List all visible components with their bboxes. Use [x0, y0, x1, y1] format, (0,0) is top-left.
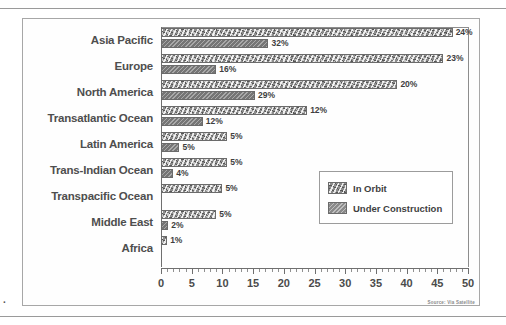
axis-tick-major	[437, 269, 438, 274]
category-label: Middle East	[23, 209, 159, 235]
axis-tick-minor	[333, 269, 334, 272]
category-label: Africa	[23, 235, 159, 261]
axis-tick-minor	[327, 269, 328, 272]
plot-area: Asia PacificEuropeNorth AmericaTransatla…	[23, 19, 481, 307]
axis-tick-major	[253, 269, 254, 274]
axis-tick-minor	[370, 269, 371, 272]
axis-tick-label: 40	[400, 277, 412, 289]
axis-tick-minor	[394, 269, 395, 272]
axis-tick-minor	[186, 269, 187, 272]
bar-value-label: 29%	[258, 91, 275, 100]
category-label: Europe	[23, 53, 159, 79]
axis-tick-minor	[462, 269, 463, 272]
category-label: Latin America	[23, 131, 159, 157]
axis-tick-label: 35	[370, 277, 382, 289]
axis-tick-minor	[388, 269, 389, 272]
bar-value-label: 5%	[182, 143, 194, 152]
bars-area: 24%32%23%16%20%29%12%12%5%5%5%4%5%5%2%1%	[161, 27, 468, 261]
bar-orbit	[161, 106, 307, 115]
bar-construction	[161, 39, 268, 48]
bar-value-label: 5%	[225, 184, 237, 193]
category-label: Transpacific Ocean	[23, 183, 159, 209]
category-label: North America	[23, 79, 159, 105]
axis-tick-major	[192, 269, 193, 274]
bar-orbit	[161, 80, 397, 89]
axis-tick-minor	[173, 269, 174, 272]
axis-tick-label: 45	[431, 277, 443, 289]
axis-tick-minor	[382, 269, 383, 272]
axis-tick-minor	[290, 269, 291, 272]
bar-value-label: 24%	[456, 28, 473, 37]
bar-value-label: 4%	[176, 169, 188, 178]
bar-group: 12%12%	[161, 105, 468, 131]
axis-tick-label: 25	[308, 277, 320, 289]
legend-item-orbit: In Orbit	[328, 178, 452, 198]
bar-value-label: 5%	[219, 210, 231, 219]
axis-tick-minor	[351, 269, 352, 272]
axis-tick-major	[407, 269, 408, 274]
bar-construction	[161, 117, 203, 126]
bar-group: 23%16%	[161, 53, 468, 79]
axis-tick-minor	[339, 269, 340, 272]
axis-tick-label: 10	[216, 277, 228, 289]
legend-label: Under Construction	[353, 203, 442, 214]
axis-tick-minor	[302, 269, 303, 272]
axis-tick-minor	[321, 269, 322, 272]
bar-orbit	[161, 54, 443, 63]
bar-value-label: 12%	[206, 117, 223, 126]
axis-tick-minor	[431, 269, 432, 272]
legend-swatch-orbit	[328, 182, 347, 194]
axis-tick-minor	[247, 269, 248, 272]
axis-tick-minor	[241, 269, 242, 272]
plot-right-border	[468, 27, 469, 267]
category-label: Trans-Indian Ocean	[23, 157, 159, 183]
bar-orbit	[161, 184, 222, 193]
axis-tick-minor	[425, 269, 426, 272]
axis-tick-minor	[167, 269, 168, 272]
bar-orbit	[161, 210, 216, 219]
page-rule-top	[0, 8, 506, 9]
axis-tick-minor	[272, 269, 273, 272]
axis-tick-minor	[259, 269, 260, 272]
category-label: Asia Pacific	[23, 27, 159, 53]
axis-tick-minor	[443, 269, 444, 272]
bar-group: 5%5%	[161, 131, 468, 157]
axis-tick-major	[222, 269, 223, 274]
bar-construction	[161, 91, 255, 100]
bar-group: 1%	[161, 235, 468, 261]
page-rule-bottom	[0, 316, 506, 317]
axis-tick-label: 0	[158, 277, 164, 289]
bar-orbit	[161, 236, 167, 245]
axis-tick-minor	[419, 269, 420, 272]
axis-tick-minor	[216, 269, 217, 272]
axis-tick-minor	[296, 269, 297, 272]
bar-value-label: 12%	[310, 106, 327, 115]
bar-construction	[161, 65, 216, 74]
bar-construction	[161, 221, 168, 230]
legend-item-construction: Under Construction	[328, 198, 452, 218]
axis-tick-major	[376, 269, 377, 274]
bar-orbit	[161, 158, 227, 167]
bar-value-label: 32%	[271, 39, 288, 48]
axis-tick-minor	[278, 269, 279, 272]
legend-swatch-construction	[328, 202, 347, 214]
bar-group: 20%29%	[161, 79, 468, 105]
axis-tick-label: 30	[339, 277, 351, 289]
axis-tick-label: 15	[247, 277, 259, 289]
chart-figure: Asia PacificEuropeNorth AmericaTransatla…	[22, 18, 480, 306]
bar-orbit	[161, 28, 453, 37]
axis-tick-minor	[364, 269, 365, 272]
axis-tick-major	[468, 269, 469, 274]
axis-tick-minor	[308, 269, 309, 272]
axis-tick-minor	[229, 269, 230, 272]
axis-tick-minor	[450, 269, 451, 272]
axis-tick-minor	[357, 269, 358, 272]
bar-orbit	[161, 132, 227, 141]
axis-tick-minor	[179, 269, 180, 272]
bar-value-label: 1%	[170, 236, 182, 245]
bar-group: 24%32%	[161, 27, 468, 53]
category-axis-labels: Asia PacificEuropeNorth AmericaTransatla…	[23, 27, 159, 261]
axis-tick-label: 50	[462, 277, 474, 289]
axis-tick-major	[345, 269, 346, 274]
axis-tick-label: 20	[278, 277, 290, 289]
